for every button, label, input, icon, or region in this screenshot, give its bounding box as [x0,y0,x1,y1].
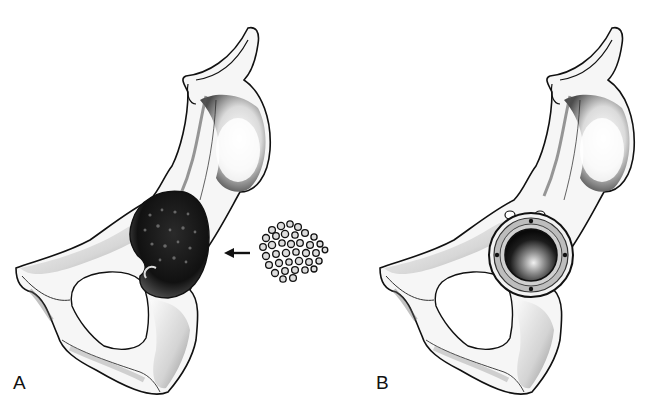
panel-label-b: B [376,372,389,394]
arrow-left-icon [224,248,250,258]
hemipelvis-b [380,28,634,395]
pelvis-illustration-figure: A B [0,0,648,413]
acetabular-defect [130,191,209,298]
panel-label-a: A [13,372,26,394]
panel-a [16,28,328,395]
morselized-bone-graft [260,221,328,282]
illustration-canvas [0,0,648,413]
acetabular-cup-implant [489,211,573,297]
panel-b [380,28,634,395]
